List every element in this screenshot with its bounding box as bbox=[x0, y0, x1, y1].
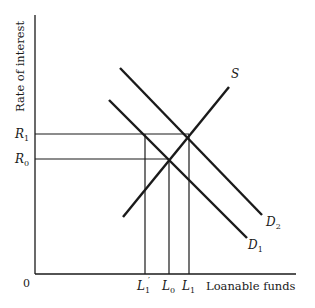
demand-curve-d2-label: D2 bbox=[265, 215, 281, 231]
x-axis-label: Loanable funds bbox=[206, 279, 296, 293]
loanable-funds-diagram: Rate of interest Loanable funds 0 S D2 D… bbox=[0, 0, 315, 308]
l1-prime-label: L1′ bbox=[136, 276, 150, 295]
r1-label: R1 bbox=[14, 127, 29, 143]
l1-label: L1 bbox=[181, 279, 195, 295]
demand-curve-d1 bbox=[109, 100, 247, 238]
supply-curve-s bbox=[123, 87, 229, 217]
demand-curve-d1-label: D1 bbox=[247, 238, 263, 254]
y-axis-label: Rate of interest bbox=[13, 21, 27, 112]
supply-curve-label: S bbox=[231, 67, 239, 81]
origin-label: 0 bbox=[23, 277, 30, 290]
r0-label: R0 bbox=[14, 152, 29, 168]
l0-label: L0 bbox=[161, 279, 175, 295]
